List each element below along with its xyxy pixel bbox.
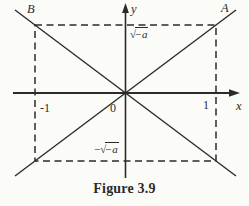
- figure-3-9: B A y x √−a −√−a -1 0 1 Figure 3.9: [0, 0, 249, 206]
- tick-label-minus-one: -1: [40, 102, 50, 114]
- lower-bound-neg-sqrt-neg-a-label: −√−a: [94, 142, 119, 156]
- radicand: −a: [135, 27, 149, 41]
- point-label-a: A: [221, 2, 229, 15]
- y-axis-arrowhead-icon: [122, 3, 129, 13]
- figure-plot: [0, 0, 249, 206]
- upper-bound-sqrt-neg-a-label: √−a: [130, 27, 148, 41]
- tick-label-zero: 0: [110, 102, 116, 114]
- x-axis-label: x: [236, 100, 242, 113]
- tick-label-one: 1: [203, 99, 209, 111]
- radicand: −a: [105, 142, 119, 156]
- x-axis-arrowhead-icon: [229, 89, 240, 96]
- figure-caption: Figure 3.9: [0, 181, 249, 197]
- point-label-b: B: [27, 3, 35, 16]
- y-axis-label: y: [131, 3, 137, 16]
